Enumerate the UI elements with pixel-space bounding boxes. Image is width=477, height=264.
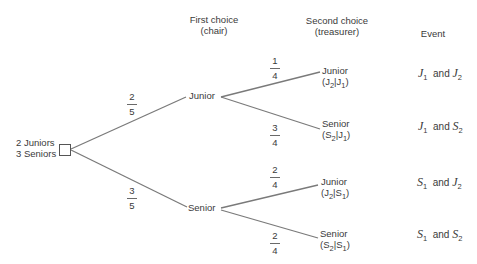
- event-j1-and-j2: J1 and J2: [418, 66, 462, 82]
- header-first-choice: First choice (chair): [179, 14, 249, 36]
- prob-numerator: 2: [269, 165, 281, 175]
- node-label: Senior: [320, 228, 350, 239]
- prob-senior-given-senior: 2 4: [269, 231, 281, 256]
- conditional-label: (J2|S1): [321, 187, 349, 202]
- root-label-seniors: 3 Seniors: [16, 148, 56, 159]
- root-label: 2 Juniors 3 Seniors: [16, 137, 56, 159]
- node-first-senior: Senior: [188, 202, 215, 213]
- header-event: Event: [408, 28, 458, 39]
- prob-senior-first: 3 5: [126, 186, 138, 211]
- node-second-junior-after-junior: Junior (J2|J1): [322, 65, 349, 91]
- fraction-bar: [270, 68, 280, 69]
- prob-junior-given-senior: 2 4: [269, 165, 281, 190]
- prob-denominator: 4: [269, 246, 281, 256]
- prob-denominator: 4: [269, 71, 281, 81]
- fraction-bar: [270, 177, 280, 178]
- conditional-label: (S2|J1): [322, 129, 350, 144]
- node-second-senior-after-junior: Senior (S2|J1): [322, 118, 350, 144]
- prob-junior-given-junior: 1 4: [269, 56, 281, 81]
- tree-branches: [0, 0, 477, 264]
- fraction-bar: [127, 104, 137, 105]
- prob-senior-given-junior: 3 4: [269, 123, 281, 148]
- fraction-bar: [270, 243, 280, 244]
- fraction-bar: [127, 198, 137, 199]
- prob-junior-first: 2 5: [126, 92, 138, 117]
- node-label: Junior: [322, 65, 349, 76]
- event-s1-and-s2: S1 and S2: [417, 227, 462, 243]
- prob-numerator: 2: [126, 92, 138, 102]
- prob-denominator: 4: [269, 138, 281, 148]
- prob-denominator: 5: [126, 107, 138, 117]
- header-second-choice: Second choice (treasurer): [300, 15, 374, 37]
- root-label-juniors: 2 Juniors: [16, 137, 56, 148]
- header-second-choice-line2: (treasurer): [300, 26, 374, 37]
- header-first-choice-line2: (chair): [179, 25, 249, 36]
- node-label: Senior: [322, 118, 350, 129]
- prob-numerator: 3: [126, 186, 138, 196]
- prob-numerator: 3: [269, 123, 281, 133]
- root-node-box: [60, 145, 71, 156]
- prob-numerator: 2: [269, 231, 281, 241]
- node-first-junior: Junior: [189, 90, 215, 101]
- prob-denominator: 5: [126, 201, 138, 211]
- event-j1-and-s2: J1 and S2: [418, 119, 463, 135]
- event-s1-and-j2: S1 and J2: [417, 175, 462, 191]
- header-first-choice-line1: First choice: [179, 14, 249, 25]
- conditional-label: (S2|S1): [320, 239, 350, 254]
- fraction-bar: [270, 135, 280, 136]
- node-second-senior-after-senior: Senior (S2|S1): [320, 228, 350, 254]
- prob-denominator: 4: [269, 180, 281, 190]
- header-second-choice-line1: Second choice: [300, 15, 374, 26]
- node-second-junior-after-senior: Junior (J2|S1): [321, 176, 349, 202]
- node-label: Junior: [321, 176, 349, 187]
- conditional-label: (J2|J1): [322, 76, 349, 91]
- prob-numerator: 1: [269, 56, 281, 66]
